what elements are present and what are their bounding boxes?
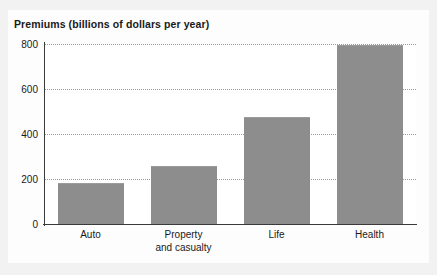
bar-health (337, 45, 403, 224)
x-label-life: Life (230, 228, 323, 254)
y-tick-label-800: 800 (4, 39, 38, 50)
bar-auto (58, 183, 124, 225)
x-label-auto-line1: Auto (80, 229, 101, 240)
y-tick-label-0: 0 (4, 219, 38, 230)
chart-figure: Premiums (billions of dollars per year) … (0, 0, 437, 275)
x-axis-labels: Auto Property and casualty Life Health (44, 228, 416, 254)
x-label-life-line1: Life (268, 229, 284, 240)
chart-title: Premiums (billions of dollars per year) (14, 18, 209, 30)
y-tick-label-200: 200 (4, 174, 38, 185)
y-tick-label-600: 600 (4, 84, 38, 95)
y-axis-ticks: 800 600 400 200 0 (0, 44, 38, 224)
x-label-property-and-casualty: Property and casualty (137, 228, 230, 254)
x-label-property-line2: and casualty (137, 241, 230, 254)
bar-property-and-casualty (151, 166, 217, 224)
bar-life (244, 117, 310, 224)
bar-slot-health (323, 44, 416, 224)
x-label-health-line1: Health (355, 229, 384, 240)
bar-slot-auto (44, 44, 137, 224)
bar-series (44, 44, 416, 224)
x-label-property-line1: Property (165, 229, 203, 240)
bar-slot-life (230, 44, 323, 224)
x-label-auto: Auto (44, 228, 137, 254)
bar-slot-property-and-casualty (137, 44, 230, 224)
x-axis-line (43, 224, 417, 225)
x-label-health: Health (323, 228, 416, 254)
y-tick-label-400: 400 (4, 129, 38, 140)
